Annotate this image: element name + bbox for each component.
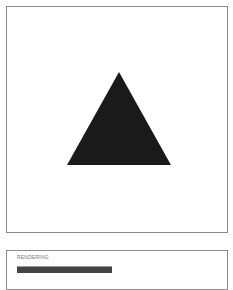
triangle-icon[interactable] (67, 72, 171, 165)
progress-bar[interactable] (17, 266, 112, 273)
triangle-shape[interactable] (0, 0, 233, 240)
info-label: RENDERING (17, 254, 49, 260)
info-panel: RENDERING (6, 250, 228, 290)
